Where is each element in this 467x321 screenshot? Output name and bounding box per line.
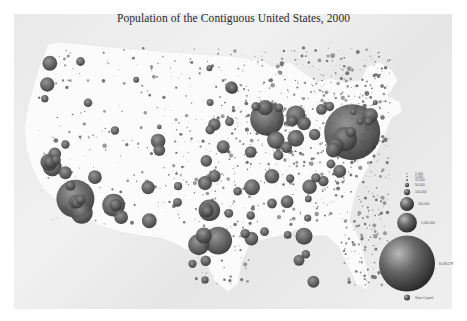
town-bubble (235, 137, 237, 139)
town-bubble (382, 238, 383, 239)
town-bubble (335, 194, 337, 196)
city-bubble: Jackson (246, 211, 255, 220)
town-bubble (235, 172, 236, 173)
town-bubble (174, 178, 175, 179)
town-bubble (254, 56, 255, 57)
town-bubble (374, 78, 375, 79)
town-bubble (301, 97, 302, 98)
town-bubble (158, 202, 159, 203)
town-bubble (79, 73, 80, 74)
town-bubble (367, 162, 370, 165)
town-bubble (39, 130, 40, 131)
town-bubble (265, 152, 266, 153)
town-bubble (72, 114, 74, 116)
town-bubble (80, 112, 81, 113)
town-bubble (371, 229, 372, 230)
town-bubble (360, 94, 361, 95)
town-bubble (345, 80, 348, 83)
town-bubble (369, 225, 371, 227)
town-bubble (369, 161, 372, 164)
town-bubble (370, 171, 371, 172)
town-bubble (359, 253, 360, 254)
town-bubble (218, 48, 219, 49)
town-bubble (87, 79, 90, 82)
town-bubble (322, 74, 324, 76)
town-bubble (337, 159, 338, 160)
town-bubble (179, 133, 182, 136)
town-bubble (99, 187, 100, 188)
town-bubble (239, 140, 241, 142)
city-bubble: Stockton (51, 155, 61, 165)
town-bubble (357, 227, 358, 228)
town-bubble (261, 59, 263, 61)
town-bubble (387, 60, 389, 62)
city-bubble: Savannah (304, 215, 311, 222)
town-bubble (387, 199, 388, 200)
town-bubble (347, 85, 349, 87)
town-bubble (105, 149, 106, 150)
town-bubble (282, 174, 283, 175)
town-bubble (246, 86, 247, 87)
legend-symbol (400, 197, 414, 211)
legend-symbol (405, 183, 409, 187)
town-bubble (190, 86, 191, 87)
town-bubble (356, 50, 360, 54)
town-bubble (211, 256, 212, 257)
town-bubble (365, 186, 366, 187)
town-bubble (257, 63, 258, 64)
city-bubble: Cheyenne (157, 125, 162, 130)
town-bubble (311, 157, 314, 160)
town-bubble (226, 228, 227, 229)
town-bubble (343, 250, 345, 252)
town-bubble (75, 176, 76, 177)
town-bubble (378, 214, 380, 216)
town-bubble (389, 72, 390, 73)
town-bubble (387, 240, 389, 242)
town-bubble (189, 77, 191, 79)
town-bubble (258, 140, 259, 141)
town-bubble (364, 85, 366, 87)
town-bubble (389, 138, 390, 139)
town-bubble (328, 214, 329, 215)
town-bubble (280, 93, 281, 94)
town-bubble (366, 59, 367, 60)
town-bubble (250, 163, 252, 165)
city-bubble: Washington (326, 142, 341, 157)
town-bubble (248, 260, 249, 261)
town-bubble (89, 149, 90, 150)
town-bubble (354, 86, 355, 87)
town-bubble (286, 169, 287, 170)
town-bubble (241, 144, 242, 145)
town-bubble (232, 108, 236, 112)
town-bubble (126, 179, 129, 182)
town-bubble (199, 68, 201, 70)
town-bubble (62, 79, 64, 81)
town-bubble (227, 178, 228, 179)
town-bubble (232, 235, 234, 237)
town-bubble (117, 162, 118, 163)
town-bubble (314, 91, 315, 92)
town-bubble (388, 146, 389, 147)
town-bubble (259, 91, 260, 92)
town-bubble (214, 116, 215, 117)
town-bubble (350, 191, 352, 193)
town-bubble (269, 168, 270, 169)
town-bubble (310, 147, 312, 149)
town-bubble (257, 221, 259, 223)
town-bubble (102, 79, 106, 83)
town-bubble (296, 87, 298, 89)
town-bubble (237, 118, 238, 119)
town-bubble (352, 241, 354, 243)
town-bubble (341, 180, 344, 183)
town-bubble (114, 75, 115, 76)
town-bubble (308, 61, 311, 64)
town-bubble (103, 110, 106, 113)
town-bubble (185, 181, 187, 183)
town-bubble (295, 219, 296, 220)
town-bubble (368, 210, 369, 211)
town-bubble (373, 268, 374, 269)
town-bubble (367, 251, 368, 252)
town-bubble (65, 86, 68, 89)
town-bubble (292, 183, 294, 185)
town-bubble (358, 178, 359, 179)
